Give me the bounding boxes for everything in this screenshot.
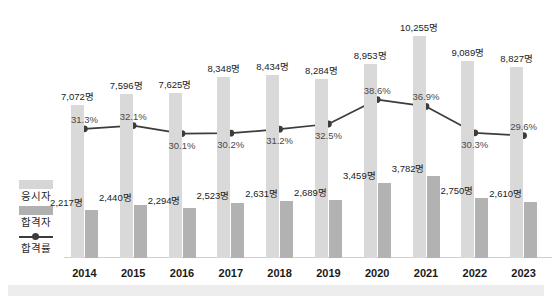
pass-rate-label-2017: 30.2% bbox=[217, 139, 244, 150]
x-axis-tick-2016: 2016 bbox=[170, 267, 194, 280]
legend-swatch-passers-icon bbox=[19, 206, 53, 215]
pass-rate-polyline bbox=[84, 100, 523, 136]
value-label-passers-2021: 3,782명 bbox=[392, 163, 425, 174]
value-label-passers-2015: 2,440명 bbox=[99, 192, 132, 203]
bar-passers-2017 bbox=[231, 203, 244, 258]
bar-passers-2018 bbox=[280, 201, 293, 258]
x-axis-tick-2021: 2021 bbox=[414, 267, 438, 280]
bar-examinees-2021 bbox=[413, 36, 426, 258]
value-label-examinees-2016: 7,625명 bbox=[159, 79, 192, 90]
bar-passers-2019 bbox=[329, 200, 342, 258]
bar-passers-2016 bbox=[183, 208, 196, 258]
bar-examinees-2016 bbox=[169, 93, 182, 258]
value-label-passers-2018: 2,631명 bbox=[245, 188, 278, 199]
pass-rate-label-2020: 38.6% bbox=[364, 85, 391, 96]
value-label-examinees-2017: 8,348명 bbox=[207, 63, 240, 74]
value-label-passers-2023: 2,610명 bbox=[489, 188, 522, 199]
pass-rate-label-2023: 29.6% bbox=[510, 121, 537, 132]
pass-rate-label-2014: 31.3% bbox=[71, 114, 98, 125]
value-label-examinees-2015: 7,596명 bbox=[110, 80, 143, 91]
bar-examinees-2014 bbox=[71, 105, 84, 258]
x-axis-tick-2020: 2020 bbox=[365, 267, 389, 280]
pass-rate-label-2018: 31.2% bbox=[266, 135, 293, 146]
legend-item-pass-rate: 합격률 bbox=[8, 232, 64, 255]
plot-area: 7,072명2,217명31.3%20147,596명2,440명32.1%20… bbox=[64, 0, 552, 296]
value-label-passers-2019: 2,689명 bbox=[294, 187, 327, 198]
x-axis-tick-2014: 2014 bbox=[72, 267, 96, 280]
value-label-passers-2014: 2,217명 bbox=[50, 197, 83, 208]
value-label-passers-2017: 2,523명 bbox=[197, 190, 230, 201]
pass-rate-label-2019: 32.5% bbox=[315, 130, 342, 141]
bar-examinees-2019 bbox=[315, 79, 328, 258]
value-label-passers-2022: 2,750명 bbox=[441, 185, 474, 196]
pass-rate-markers bbox=[81, 96, 527, 139]
legend-label-passers: 합격자 bbox=[8, 216, 64, 229]
pass-rate-label-2015: 32.1% bbox=[120, 111, 147, 122]
legend-label-pass-rate: 합격률 bbox=[8, 242, 64, 255]
legend-swatch-examinees-icon bbox=[19, 180, 53, 189]
x-axis-tick-2018: 2018 bbox=[267, 267, 291, 280]
legend-line-marker-icon bbox=[19, 232, 53, 241]
bar-examinees-2022 bbox=[461, 61, 474, 258]
value-label-examinees-2021: 10,255명 bbox=[400, 22, 438, 33]
pass-rate-label-2021: 36.9% bbox=[413, 91, 440, 102]
pass-rate-label-2022: 30.3% bbox=[461, 139, 488, 150]
value-label-examinees-2023: 8,827명 bbox=[500, 53, 533, 64]
x-axis-tick-2019: 2019 bbox=[316, 267, 340, 280]
bar-passers-2022 bbox=[475, 198, 488, 258]
bar-examinees-2017 bbox=[217, 77, 230, 258]
bar-passers-2020 bbox=[378, 183, 391, 258]
chart-legend: 응시자 합격자 합격률 bbox=[8, 180, 64, 258]
bar-passers-2023 bbox=[524, 202, 537, 259]
bar-passers-2014 bbox=[85, 210, 98, 258]
value-label-examinees-2019: 8,284명 bbox=[305, 65, 338, 76]
legend-item-passers: 합격자 bbox=[8, 206, 64, 229]
bar-passers-2021 bbox=[427, 176, 440, 258]
bottom-decorative-band bbox=[8, 285, 544, 296]
x-axis-tick-2023: 2023 bbox=[511, 267, 535, 280]
bar-passers-2015 bbox=[134, 205, 147, 258]
value-label-examinees-2014: 7,072명 bbox=[61, 91, 94, 102]
value-label-examinees-2022: 9,089명 bbox=[451, 47, 484, 58]
value-label-examinees-2018: 8,434명 bbox=[256, 61, 289, 72]
pass-rate-label-2016: 30.1% bbox=[169, 140, 196, 151]
x-axis-tick-2017: 2017 bbox=[219, 267, 243, 280]
value-label-examinees-2020: 8,953명 bbox=[354, 50, 387, 61]
value-label-passers-2020: 3,459명 bbox=[343, 170, 376, 181]
bar-examinees-2018 bbox=[266, 75, 279, 258]
x-axis-tick-2022: 2022 bbox=[463, 267, 487, 280]
x-axis-tick-2015: 2015 bbox=[121, 267, 145, 280]
value-label-passers-2016: 2,294명 bbox=[148, 195, 181, 206]
bar-examinees-2023 bbox=[510, 67, 523, 258]
exam-statistics-chart: 응시자 합격자 합격률 7,072명2,217명31.3%20147,596명2… bbox=[0, 0, 552, 296]
